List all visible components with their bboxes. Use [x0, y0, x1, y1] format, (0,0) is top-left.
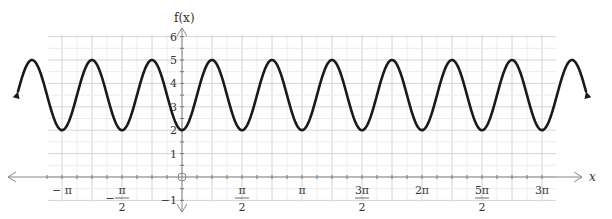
x-tick-label-denominator: 2: [119, 201, 126, 214]
x-tick-label: π: [298, 184, 305, 197]
x-tick-label-numerator: 5π: [475, 184, 489, 197]
x-tick-label-numerator: 3π: [355, 184, 369, 197]
x-tick-label: 2π: [415, 184, 429, 197]
x-tick-label-denominator: 2: [359, 201, 366, 214]
y-tick-label: −1: [161, 194, 177, 207]
x-tick-label: − π: [52, 184, 72, 197]
x-axis-title: x: [589, 170, 596, 184]
x-tick-label-denominator: 2: [239, 201, 246, 214]
x-tick-label: 3π: [535, 184, 549, 197]
y-tick-label: 6: [170, 31, 177, 44]
x-tick-label-numerator: π: [238, 184, 245, 197]
function-graph: 654321−1− ππ2−π2π3π22π5π23π f(x) x: [0, 0, 612, 219]
y-axis-title: f(x): [174, 11, 195, 25]
x-tick-label-minus: −: [105, 192, 114, 205]
y-tick-label: 4: [170, 77, 177, 90]
y-tick-label: 1: [170, 148, 177, 161]
x-tick-label-numerator: π: [118, 184, 125, 197]
y-tick-label: 5: [170, 54, 177, 67]
x-tick-label-denominator: 2: [479, 201, 486, 214]
